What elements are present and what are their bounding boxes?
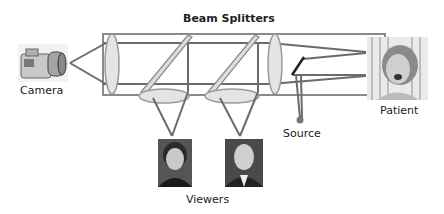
viewer-lens-1 xyxy=(139,89,189,103)
camera-photo xyxy=(18,44,68,82)
patient-beam-top xyxy=(270,43,366,52)
patient-label: Patient xyxy=(380,104,418,117)
source-mirror xyxy=(292,57,304,75)
source-label: Source xyxy=(283,127,321,140)
source-line-right xyxy=(301,75,302,118)
lens-right xyxy=(268,34,282,94)
lens-left xyxy=(105,34,119,94)
viewers-label: Viewers xyxy=(186,193,229,206)
optical-diagram xyxy=(0,0,444,214)
viewer-woman-photo xyxy=(158,139,192,187)
viewer-lens-2 xyxy=(205,89,259,103)
camera-cone-bottom xyxy=(70,63,106,84)
beam-splitters-label: Beam Splitters xyxy=(183,12,275,25)
camera-cone-top xyxy=(70,43,106,63)
patient-photo xyxy=(367,37,428,100)
source-point-icon xyxy=(297,117,304,124)
camera-label: Camera xyxy=(20,84,63,97)
source-beam-top xyxy=(303,53,366,59)
patient-beam-bottom xyxy=(270,76,366,84)
viewer-man-photo xyxy=(225,139,263,187)
